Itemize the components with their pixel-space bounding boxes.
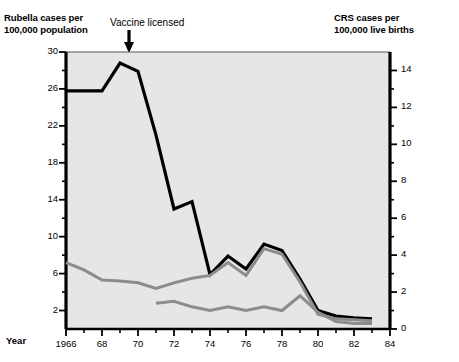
axis-tick-label: 76	[230, 339, 262, 349]
axis-tick-label: 1966	[50, 339, 82, 349]
axis-tick-label: 2	[401, 286, 423, 296]
axis-tick-label: 2	[30, 305, 58, 315]
axis-tick-label: 70	[122, 339, 154, 349]
axis-tick-label: 22	[30, 120, 58, 130]
axis-tick-label: 10	[401, 138, 423, 148]
axis-tick-label: 8	[401, 175, 423, 185]
axis-tick-label: 12	[401, 101, 423, 111]
axis-tick-label: 80	[302, 339, 334, 349]
axis-tick-label: 72	[158, 339, 190, 349]
axis-tick-label: 4	[401, 249, 423, 259]
axis-tick-label: 84	[374, 339, 406, 349]
axis-tick-label: 74	[194, 339, 226, 349]
axis-tick-label: 78	[266, 339, 298, 349]
axis-tick-label: 14	[30, 194, 58, 204]
axis-tick-label: 18	[30, 157, 58, 167]
axis-tick-label: 0	[401, 323, 423, 333]
axis-tick-label: 26	[30, 83, 58, 93]
axis-tick-label: 10	[30, 231, 58, 241]
axis-tick-label: 6	[30, 268, 58, 278]
axis-tick-label: 6	[401, 212, 423, 222]
axis-tick-label: 30	[30, 46, 58, 56]
chart-plot-area: 2610141822263002468101214196668707274767…	[0, 0, 459, 362]
chart-svg	[0, 0, 459, 362]
axis-tick-label: 82	[338, 339, 370, 349]
axis-tick-label: 14	[401, 64, 423, 74]
axis-tick-label: 68	[86, 339, 118, 349]
